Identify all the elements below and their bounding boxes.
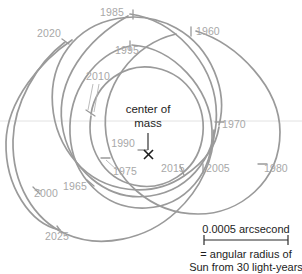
center-of-mass-label-line1: center of	[126, 103, 172, 115]
year-label-1970: 1970	[222, 118, 246, 130]
year-label-1975: 1975	[113, 165, 137, 177]
leader-2010-b	[94, 84, 99, 112]
year-label-2010: 2010	[86, 70, 110, 82]
year-label-1990: 1990	[111, 137, 135, 149]
scale-legend: 0.0005 arcsecond = angular radius of Sun…	[189, 223, 302, 273]
tick-2010	[86, 110, 95, 116]
scale-value-label: 0.0005 arcsecond	[202, 223, 289, 235]
year-label-2000: 2000	[34, 187, 58, 199]
center-of-mass-label-line2: mass	[134, 117, 162, 129]
year-label-1965: 1965	[63, 180, 87, 192]
year-label-1985: 1985	[100, 6, 124, 18]
year-label-2025: 2025	[45, 230, 69, 242]
year-label-2020: 2020	[37, 27, 61, 39]
label-leader-lines	[36, 40, 117, 233]
diagram-canvas: 1985 1960 2020 1995 2010 1970 1990 2015 …	[0, 0, 302, 274]
sun-barycenter-diagram: 1985 1960 2020 1995 2010 1970 1990 2015 …	[0, 0, 302, 274]
scale-equals-line1: = angular radius of	[200, 248, 292, 260]
orbit-loop-2025	[6, 40, 72, 230]
scale-equals-line2: Sun from 30 light-years	[189, 261, 302, 273]
year-label-1960: 1960	[196, 25, 220, 37]
year-label-1995: 1995	[115, 44, 139, 56]
year-label-1980: 1980	[264, 162, 288, 174]
center-of-mass-annotation: center of mass	[126, 103, 172, 159]
year-label-2005: 2005	[206, 162, 230, 174]
year-label-2015: 2015	[161, 162, 185, 174]
